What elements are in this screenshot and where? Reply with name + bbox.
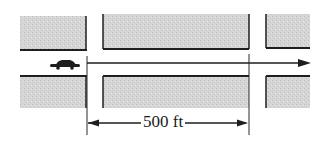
dimension-label: 500 ft — [141, 113, 185, 131]
bottom-right-block — [266, 76, 310, 108]
top-right-block — [266, 14, 310, 48]
car-icon — [50, 60, 80, 70]
top-middle-block — [103, 14, 249, 49]
top-left-block — [20, 16, 87, 50]
bottom-middle-block — [103, 76, 249, 108]
direction-arrow — [87, 59, 311, 67]
bottom-left-block — [20, 76, 87, 108]
